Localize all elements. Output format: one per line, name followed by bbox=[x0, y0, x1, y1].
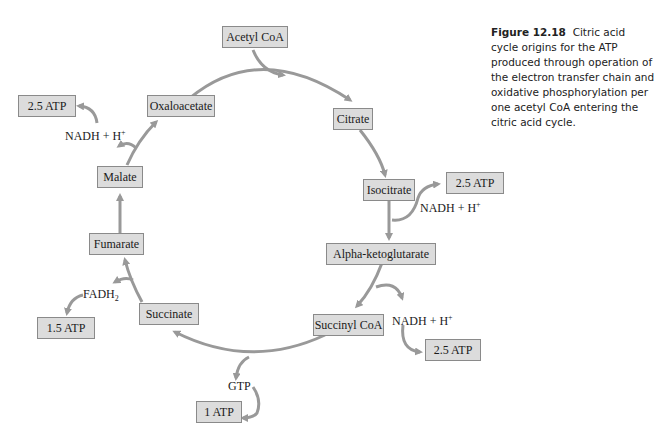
acetyl-coa-box: Acetyl CoA bbox=[222, 26, 288, 48]
atp-box-isocitrate: 2.5 ATP bbox=[446, 172, 504, 194]
succinyl-coa-box: Succinyl CoA bbox=[313, 314, 384, 336]
nadh-label-malate: NADH + H+ bbox=[65, 126, 126, 143]
isocitrate-box: Isocitrate bbox=[363, 179, 415, 201]
figure-caption: Figure 12.18 Citric acid cycle origins f… bbox=[491, 25, 655, 130]
malate-box: Malate bbox=[97, 166, 143, 188]
succinate-box: Succinate bbox=[139, 303, 199, 325]
gtp-label: GTP bbox=[228, 379, 251, 393]
fadh2-label: FADH2 bbox=[83, 287, 119, 306]
figure-number: Figure 12.18 bbox=[491, 26, 566, 38]
atp-box-succinyl-coa: 1 ATP bbox=[196, 401, 242, 423]
atp-box-malate: 2.5 ATP bbox=[18, 95, 76, 117]
nadh-label-alpha-kg: NADH + H+ bbox=[392, 311, 453, 328]
atp-box-alpha-kg: 2.5 ATP bbox=[425, 339, 481, 361]
fumarate-box: Fumarate bbox=[89, 233, 144, 255]
nadh-label-isocitrate: NADH + H+ bbox=[420, 198, 481, 215]
alpha-ketoglutarate-box: Alpha-ketoglutarate bbox=[326, 243, 436, 265]
citrate-box: Citrate bbox=[333, 108, 373, 130]
figure-caption-text: Citric acid cycle origins for the ATP pr… bbox=[491, 26, 654, 128]
atp-box-succinate: 1.5 ATP bbox=[37, 317, 95, 339]
oxaloacetate-box: Oxaloacetate bbox=[147, 95, 215, 117]
